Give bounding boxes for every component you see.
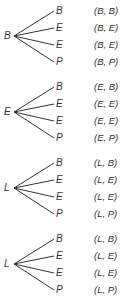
outcome-label: (E, P) [94, 132, 118, 143]
outcome-label: (L, B) [94, 157, 117, 168]
leaf-node: B [56, 5, 63, 16]
leaf-node: B [56, 157, 63, 168]
outcome-label: (L, P) [94, 284, 117, 295]
outcome-label: (L, B) [94, 233, 117, 244]
tree-1: BB(B, B)E(B, E)E(B, E)P(B, P) [0, 0, 131, 75]
outcome-label: (L, P) [94, 208, 117, 219]
leaf-node: P [56, 132, 63, 143]
root-node: L [4, 258, 10, 269]
leaf-node: E [56, 39, 63, 50]
leaf-node: E [56, 115, 63, 126]
outcome-label: (L, E) [94, 174, 117, 185]
leaf-node: E [56, 191, 63, 202]
leaf-node: E [56, 267, 63, 278]
leaf-node: P [56, 208, 63, 219]
tree-4: LB(L, B)E(L, E)E(L, E)P(L, P) [0, 228, 131, 302]
leaf-node: E [56, 98, 63, 109]
outcome-label: (B, P) [94, 56, 118, 67]
outcome-label: (E, E) [94, 115, 118, 126]
outcome-label: (L, E) [94, 250, 117, 261]
leaf-node: B [56, 233, 63, 244]
leaf-node: E [56, 174, 63, 185]
leaf-node: E [56, 250, 63, 261]
root-node: B [4, 30, 11, 41]
outcome-label: (E, E) [94, 98, 118, 109]
outcome-label: (B, E) [94, 39, 118, 50]
leaf-node: P [56, 56, 63, 67]
tree-3: LB(L, B)E(L, E)E(L, E)P(L, P) [0, 152, 131, 227]
outcome-label: (E, B) [94, 81, 118, 92]
root-node: L [4, 182, 10, 193]
root-node: E [4, 106, 11, 117]
tree-2: EB(E, B)E(E, E)E(E, E)P(E, P) [0, 76, 131, 151]
outcome-label: (L, E) [94, 191, 117, 202]
leaf-node: P [56, 284, 63, 295]
outcome-label: (B, E) [94, 22, 118, 33]
leaf-node: E [56, 22, 63, 33]
outcome-label: (B, B) [94, 5, 118, 16]
leaf-node: B [56, 81, 63, 92]
outcome-label: (L, E) [94, 267, 117, 278]
